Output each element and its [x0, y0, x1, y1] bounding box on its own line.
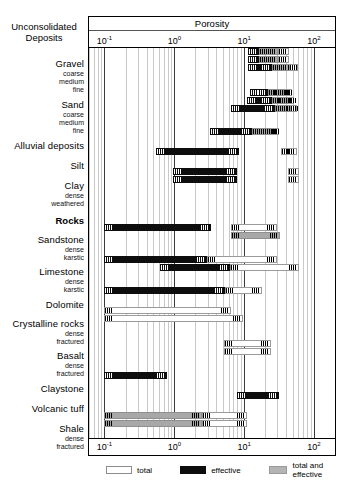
- porosity-chart-figure: Unconsolidated Deposits Gravel coarse me…: [0, 0, 339, 490]
- bar-segment-effective: [248, 56, 259, 63]
- bar-row: [89, 307, 335, 314]
- bar-segment-effective: [104, 372, 166, 379]
- bar-segment-total: [225, 287, 262, 294]
- bar-segment-both: [272, 64, 289, 71]
- bar-row: [89, 48, 335, 55]
- label-limestone-dense: dense: [65, 278, 84, 285]
- label-crystalline-fractured: fractured: [56, 338, 84, 345]
- label-gravel: Gravel: [55, 58, 84, 69]
- label-sandstone-dense: dense: [65, 246, 84, 253]
- bar-segment-total: [281, 148, 297, 155]
- legend-swatch-effective: [180, 466, 206, 474]
- label-clay-dense: dense: [65, 192, 84, 199]
- label-sand-fine: fine: [73, 127, 84, 134]
- label-crystalline-dense: dense: [65, 330, 84, 337]
- bottom-tick-label-3: 101: [237, 441, 250, 452]
- bar-series-area: [89, 48, 335, 438]
- bar-segment-effective: [248, 48, 259, 55]
- bar-segment-total: [207, 256, 278, 263]
- label-sandstone: Sandstone: [38, 234, 84, 245]
- legend-swatch-both: [269, 466, 288, 474]
- chart-title: Porosity: [89, 17, 335, 31]
- bar-segment-effective: [173, 176, 238, 183]
- label-sandstone-karstic: karstic: [64, 254, 84, 261]
- bar-segment-total: [202, 420, 247, 427]
- bar-segment-total: [284, 89, 292, 96]
- bar-row: [89, 392, 335, 399]
- bar-segment-effective: [156, 148, 239, 155]
- bar-row: [89, 256, 335, 263]
- label-basalt: Basalt: [57, 350, 84, 361]
- group-header-unconsolidated: Unconsolidated Deposits: [0, 22, 88, 43]
- chart-legend: total effective total and effective: [88, 460, 336, 480]
- bar-segment-total: [288, 97, 294, 104]
- legend-item-both: total and effective: [269, 461, 336, 479]
- label-alluvial-deposits: Alluvial deposits: [14, 140, 84, 151]
- bar-row: [89, 148, 335, 155]
- label-sand: Sand: [61, 99, 84, 110]
- bar-segment-effective: [250, 89, 268, 96]
- bar-row: [89, 105, 335, 112]
- label-limestone-karstic: karstic: [64, 286, 84, 293]
- top-tick-label-2: 100: [168, 35, 181, 46]
- bar-row: [89, 224, 335, 231]
- bar-segment-effective: [104, 256, 206, 263]
- bar-row: [89, 232, 335, 239]
- bar-segment-both: [259, 56, 278, 63]
- label-silt: Silt: [70, 160, 84, 171]
- top-tick-label-3: 101: [237, 35, 250, 46]
- bar-segment-total: [202, 412, 247, 419]
- top-tick-label-1: 10-1: [97, 35, 112, 46]
- bar-row: [89, 89, 335, 96]
- bar-segment-total: [231, 224, 277, 231]
- bar-segment-total: [278, 56, 289, 63]
- bar-segment-total: [290, 105, 298, 112]
- bar-row: [89, 97, 335, 104]
- legend-label-effective: effective: [211, 466, 241, 475]
- bar-segment-both: [104, 412, 202, 419]
- label-shale-fractured: fractured: [56, 443, 84, 450]
- label-volcanic-tuff: Volcanic tuff: [32, 403, 84, 414]
- bar-segment-effective: [104, 224, 210, 231]
- label-clay: Clay: [65, 180, 84, 191]
- label-gravel-coarse: coarse: [63, 70, 84, 77]
- bar-segment-total: [271, 128, 280, 135]
- label-shale: Shale: [59, 423, 84, 434]
- bar-row: [89, 287, 335, 294]
- bar-row: [89, 56, 335, 63]
- label-dolomite: Dolomite: [46, 299, 84, 310]
- legend-label-both: total and effective: [292, 461, 336, 479]
- bar-row: [89, 340, 335, 347]
- bar-row: [89, 264, 335, 271]
- label-crystalline-rocks: Crystalline rocks: [13, 318, 84, 329]
- bar-segment-total: [224, 340, 270, 347]
- legend-item-effective: effective: [180, 466, 241, 475]
- group-header-line2: Deposits: [26, 32, 63, 43]
- bar-segment-effective: [173, 168, 238, 175]
- bar-segment-total: [230, 264, 300, 271]
- bar-segment-effective: [160, 264, 230, 271]
- bottom-axis: 10-1 100 101 102: [89, 438, 335, 455]
- bar-segment-total: [278, 48, 289, 55]
- plot-area: Porosity 10-1 100 101 102 10-1 100 101 1…: [88, 16, 336, 456]
- bar-row: [89, 420, 335, 427]
- bar-row: [89, 64, 335, 71]
- label-gravel-fine: fine: [73, 86, 84, 93]
- top-axis: 10-1 100 101 102: [89, 31, 335, 48]
- bar-row: [89, 168, 335, 175]
- bar-segment-effective: [104, 287, 224, 294]
- label-limestone: Limestone: [39, 266, 84, 277]
- bar-segment-effective: [248, 64, 272, 71]
- bar-row: [89, 315, 335, 322]
- bar-row: [89, 176, 335, 183]
- bottom-tick-label-2: 100: [168, 441, 181, 452]
- group-header-rocks: Rocks: [55, 215, 84, 226]
- bar-segment-total: [224, 348, 270, 355]
- bar-segment-total: [288, 176, 300, 183]
- bar-segment-both: [252, 128, 271, 135]
- label-sand-coarse: coarse: [63, 111, 84, 118]
- bar-row: [89, 412, 335, 419]
- legend-item-total: total: [106, 466, 152, 475]
- bar-segment-total: [289, 64, 298, 71]
- label-basalt-fractured: fractured: [56, 370, 84, 377]
